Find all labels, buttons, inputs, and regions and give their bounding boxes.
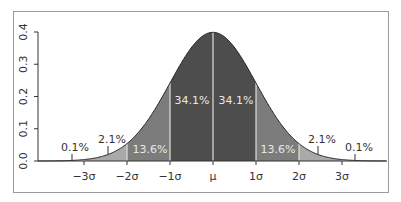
normal-distribution-chart: 0.00.10.20.30.4−3σ−2σ−1σμ1σ2σ3σ0.1%2.1%1… (0, 0, 401, 202)
percent-label: 13.6% (261, 143, 296, 156)
x-tick-label: 1σ (249, 170, 263, 183)
y-tick-label: 0.4 (17, 23, 30, 41)
percent-label: 2.1% (98, 133, 126, 146)
percent-label: 0.1% (345, 141, 373, 154)
x-tick-label: −3σ (72, 170, 95, 183)
y-tick-label: 0.0 (17, 152, 30, 170)
x-tick-label: −2σ (115, 170, 138, 183)
percent-label: 34.1% (219, 94, 254, 107)
x-tick-label: 2σ (292, 170, 306, 183)
percent-label: 13.6% (133, 143, 168, 156)
y-tick-label: 0.2 (17, 88, 30, 106)
y-tick-label: 0.1 (17, 120, 30, 138)
x-tick-label: μ (210, 170, 217, 183)
percent-label: 34.1% (175, 94, 210, 107)
percent-label: 2.1% (308, 133, 336, 146)
percent-label: 0.1% (61, 141, 89, 154)
x-tick-label: −1σ (158, 170, 181, 183)
y-tick-label: 0.3 (17, 56, 30, 74)
x-tick-label: 3σ (335, 170, 349, 183)
